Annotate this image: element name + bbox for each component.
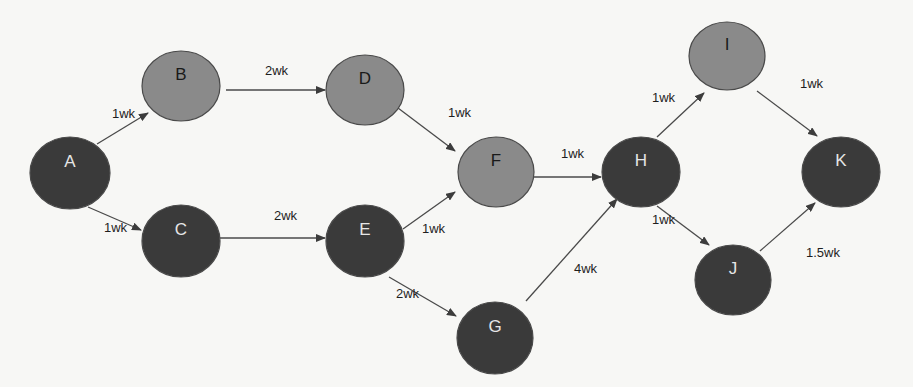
node-g-label: G: [488, 317, 501, 336]
nodes-layer: ABCDEFGHIJK: [30, 22, 880, 374]
edge-i-k-arrow: [757, 91, 817, 136]
node-i: I: [689, 22, 765, 90]
node-j-label: J: [729, 259, 738, 278]
node-c-label: C: [175, 220, 187, 239]
edge-label-e-g: 2wk: [396, 286, 420, 301]
node-a-circle: [30, 137, 110, 209]
edge-label-d-f: 1wk: [448, 105, 472, 120]
node-h: H: [602, 137, 680, 207]
node-a: A: [30, 137, 110, 209]
edge-label-h-i: 1wk: [652, 90, 676, 105]
edge-label-h-j: 1wk: [652, 212, 676, 227]
node-g: G: [457, 302, 533, 374]
node-d-label: D: [359, 69, 371, 88]
node-e-label: E: [359, 220, 370, 239]
node-j: J: [695, 245, 771, 315]
edge-label-i-k: 1wk: [800, 76, 824, 91]
node-e: E: [326, 205, 404, 277]
node-h-circle: [602, 137, 680, 207]
edge-label-f-h: 1wk: [561, 146, 585, 161]
edge-d-f-arrow: [398, 108, 455, 151]
node-a-label: A: [64, 152, 76, 171]
edge-label-g-h: 4wk: [574, 261, 598, 276]
node-f-label: F: [491, 151, 501, 170]
node-d-circle: [326, 55, 404, 125]
node-e-circle: [326, 205, 404, 277]
edge-label-e-f: 1wk: [422, 221, 446, 236]
node-k-circle: [802, 137, 880, 207]
node-f: F: [458, 137, 534, 207]
edge-label-b-d: 2wk: [265, 63, 289, 78]
node-d: D: [326, 55, 404, 125]
network-diagram: ABCDEFGHIJK 1wk1wk2wk2wk1wk1wk2wk1wk4wk1…: [0, 0, 913, 387]
node-g-circle: [457, 302, 533, 374]
node-i-circle: [689, 22, 765, 90]
node-f-circle: [458, 137, 534, 207]
node-b-circle: [142, 51, 220, 121]
node-b: B: [142, 51, 220, 121]
node-c: C: [142, 205, 220, 277]
node-c-circle: [142, 205, 220, 277]
node-k-label: K: [835, 151, 847, 170]
node-k: K: [802, 137, 880, 207]
edge-label-c-e: 2wk: [274, 208, 298, 223]
node-h-label: H: [635, 151, 647, 170]
node-j-circle: [695, 245, 771, 315]
edge-label-j-k: 1.5wk: [806, 245, 840, 260]
node-b-label: B: [175, 65, 186, 84]
edge-label-a-b: 1wk: [112, 106, 136, 121]
edge-g-h-arrow: [526, 199, 617, 301]
edge-label-a-c: 1wk: [104, 220, 128, 235]
edge-j-k-arrow: [760, 203, 815, 251]
node-i-label: I: [725, 35, 730, 54]
diagram-canvas: ABCDEFGHIJK 1wk1wk2wk2wk1wk1wk2wk1wk4wk1…: [0, 0, 913, 387]
